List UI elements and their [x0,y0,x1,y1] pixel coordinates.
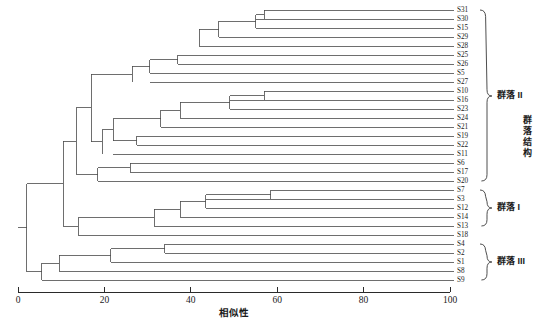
leaf-label: S30 [457,15,469,23]
leaf-label: S18 [457,231,469,239]
group-brace [480,244,492,280]
dendrogram-links [18,10,454,280]
axis-title: 相似性 [219,307,249,318]
leaf-label: S23 [457,105,469,113]
leaf-label: S22 [457,141,469,149]
leaf-label: S26 [457,60,469,68]
leaf-label: S1 [457,258,465,266]
leaf-label: S7 [457,186,465,194]
side-annotation-community-structure: 群落结构 [521,115,533,159]
leaf-label: S28 [457,42,469,50]
side-annotation-char: 群 [521,115,533,126]
leaf-label: S20 [457,177,469,185]
leaf-label: S15 [457,24,469,32]
leaf-label: S12 [457,204,469,212]
side-annotation-char: 落 [521,126,533,137]
x-axis: 020406080100相似性 [16,287,458,318]
leaf-label: S11 [457,150,468,158]
leaf-label: S6 [457,159,465,167]
leaf-label: S17 [457,168,469,176]
leaf-label: S5 [457,69,465,77]
axis-tick-label: 80 [359,295,369,305]
leaf-label: S3 [457,195,465,203]
leaf-label: S2 [457,249,465,257]
leaf-label: S9 [457,276,465,284]
leaf-label: S19 [457,132,469,140]
leaf-label: S25 [457,51,469,59]
leaf-label: S10 [457,87,469,95]
leaf-label: S14 [457,213,469,221]
leaf-label: S4 [457,240,465,248]
axis-tick-label: 60 [272,295,282,305]
group-label: 群落 II [496,89,523,100]
leaf-label: S16 [457,96,469,104]
group-brace [480,190,492,226]
leaf-label: S8 [457,267,465,275]
leaf-label: S24 [457,114,469,122]
axis-tick-label: 100 [443,295,458,305]
dendrogram-plot: S31S30S15S29S28S25S26S5S27S10S16S23S24S2… [0,0,540,325]
leaf-label: S13 [457,222,469,230]
leaf-label: S31 [457,6,469,14]
group-brace [480,10,492,181]
leaf-label: S27 [457,78,469,86]
side-annotation-char: 构 [521,148,533,159]
axis-tick-label: 40 [186,295,196,305]
group-label: 群落 III [496,255,525,266]
dendrogram-leaf-labels: S31S30S15S29S28S25S26S5S27S10S16S23S24S2… [457,6,469,284]
group-label: 群落 I [496,201,520,212]
axis-tick-label: 0 [16,295,21,305]
axis-tick-label: 20 [100,295,110,305]
leaf-label: S21 [457,123,469,131]
leaf-label: S29 [457,33,469,41]
side-annotation-char: 结 [521,137,533,148]
group-braces: 群落 II群落 I群落 III [480,10,525,280]
dendrogram-figure: S31S30S15S29S28S25S26S5S27S10S16S23S24S2… [0,0,540,325]
